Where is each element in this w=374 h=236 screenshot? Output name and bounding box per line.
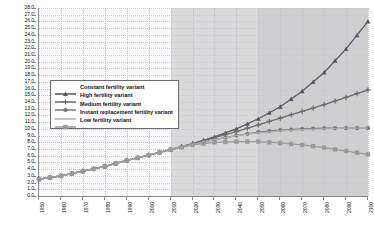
x-tick-label: 1950 [40,202,45,213]
x-tick-mark [301,196,302,200]
data-point-marker [223,140,227,144]
legend-item: Instant replacement fertility variant [55,109,173,117]
data-point-marker [343,95,348,100]
x-tick-mark [235,196,236,200]
y-tick-mark [33,142,36,143]
data-point-marker [355,150,359,154]
data-point-marker [365,87,370,92]
data-point-marker [136,156,140,160]
data-point-marker [245,139,249,143]
data-point-marker [114,161,118,165]
series-line [39,142,368,180]
data-point-marker [289,112,294,117]
data-point-marker [311,144,315,148]
x-tick-mark [60,196,61,200]
data-point-marker [201,141,205,145]
x-tick-label: 2010 [172,202,177,213]
y-axis: 0.01.02.03.04.05.06.07.08.09.010.011.012… [0,8,36,196]
x-tick-mark [104,196,105,200]
data-point-marker [300,109,305,114]
data-point-marker [48,175,52,179]
series-medium-fertility-variant [37,126,370,181]
data-point-marker [179,145,183,149]
y-tick-mark [33,55,36,56]
data-point-marker [267,140,271,144]
y-tick-mark [33,176,36,177]
y-tick-mark [33,21,36,22]
x-tick-label: 2100 [369,202,374,213]
x-tick-mark [345,196,346,200]
legend-label: Constant fertility variant [80,85,144,91]
data-point-marker [157,150,161,154]
legend-label: Medium fertility variant [80,102,141,108]
x-tick-label: 2040 [238,202,243,213]
data-point-marker [267,119,272,124]
y-tick-mark [33,95,36,96]
data-point-marker [190,143,194,147]
y-tick-mark [33,48,36,49]
data-point-marker [256,139,260,143]
y-tick-mark [33,109,36,110]
series-line [39,128,368,179]
y-tick-mark [33,115,36,116]
legend-item: Constant fertility variant [55,84,173,92]
data-point-marker [311,126,315,130]
x-tick-mark [192,196,193,200]
data-point-marker [256,116,261,120]
data-point-marker [234,139,238,143]
x-tick-mark [367,196,368,200]
x-tick-label: 2030 [216,202,221,213]
x-tick-mark [170,196,171,200]
x-tick-label: 1960 [62,202,67,213]
legend-item: High fertility variant [55,92,173,100]
legend-swatch-none-icon [55,109,76,117]
data-point-marker [245,126,250,131]
x-tick-label: 2020 [194,202,199,213]
data-point-marker [366,152,370,156]
y-tick-mark [33,149,36,150]
data-point-marker [37,177,41,181]
data-point-marker [103,164,107,168]
x-tick-label: 2050 [260,202,265,213]
x-tick-mark [323,196,324,200]
x-tick-mark [213,196,214,200]
x-tick-label: 1980 [106,202,111,213]
y-tick-mark [33,183,36,184]
y-tick-mark [33,169,36,170]
y-tick-mark [33,89,36,90]
data-point-marker [322,126,326,130]
series-low-fertility-variant [37,139,370,181]
y-tick-mark [33,42,36,43]
x-tick-label: 2080 [325,202,330,213]
chart-legend: Constant fertility variantHigh fertility… [50,80,179,129]
data-point-marker [344,149,348,153]
data-point-marker [278,141,282,145]
legend-item: Medium fertility variant [55,100,173,108]
legend-label: Instant replacement fertility variant [80,110,173,116]
data-point-marker [92,167,96,171]
data-point-marker [168,147,172,151]
legend-swatch-circle-icon [55,100,76,108]
legend-swatch-square-icon [55,117,76,125]
y-tick-mark [33,68,36,69]
y-tick-mark [33,102,36,103]
data-point-marker [289,142,293,146]
data-point-marker [300,127,304,131]
x-axis: 1950196019701980199020002010202020302040… [38,196,367,236]
y-tick-mark [33,82,36,83]
legend-label: High fertility variant [80,93,133,99]
series-line [39,128,368,179]
y-tick-mark [33,136,36,137]
x-tick-mark [126,196,127,200]
legend-label: Low fertility variant [80,118,131,124]
x-tick-label: 2000 [150,202,155,213]
y-tick-mark [33,15,36,16]
x-tick-mark [257,196,258,200]
y-tick-mark [33,156,36,157]
data-point-marker [333,98,338,103]
gridline-x-2100 [368,8,369,196]
data-point-marker [333,147,337,151]
y-tick-mark [33,62,36,63]
data-point-marker [267,110,272,114]
x-tick-mark [38,196,39,200]
